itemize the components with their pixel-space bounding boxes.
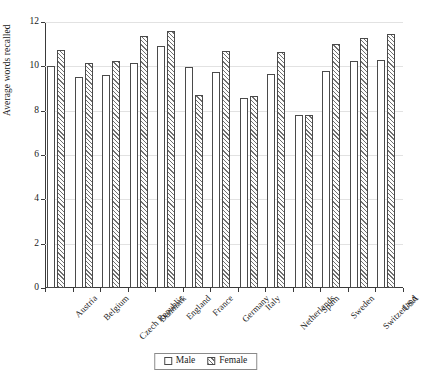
legend-item-label: Male bbox=[176, 356, 196, 366]
legend-item-label: Female bbox=[219, 356, 247, 366]
bar-group bbox=[293, 22, 321, 288]
bar-male bbox=[75, 77, 83, 288]
open-square-icon bbox=[164, 357, 172, 365]
x-tick-mark bbox=[210, 288, 211, 292]
y-tick-label: 12 bbox=[30, 17, 40, 27]
bar-male bbox=[212, 72, 220, 288]
x-tick-mark bbox=[320, 288, 321, 292]
hatched-square-icon bbox=[207, 357, 215, 365]
x-tick-label: Sweden bbox=[349, 293, 377, 321]
bar-male bbox=[295, 115, 303, 288]
x-tick-label: Belgium bbox=[102, 293, 131, 322]
x-tick-mark bbox=[293, 288, 294, 292]
bar-male bbox=[377, 60, 385, 288]
bar-female bbox=[387, 34, 395, 288]
bar-group bbox=[45, 22, 73, 288]
bar-male bbox=[240, 98, 248, 288]
bar-group bbox=[265, 22, 293, 288]
x-tick-label: Spain bbox=[319, 293, 341, 315]
x-tick-mark bbox=[348, 288, 349, 292]
bar-female bbox=[277, 52, 285, 288]
plot-area: 024681012 bbox=[45, 22, 403, 288]
bar-female bbox=[112, 61, 120, 288]
x-tick-mark bbox=[128, 288, 129, 292]
chart-legend: MaleFemale bbox=[154, 353, 258, 370]
bar-group bbox=[183, 22, 211, 288]
bar-female bbox=[332, 44, 340, 288]
bar-male bbox=[350, 61, 358, 288]
bar-female bbox=[250, 96, 258, 288]
bar-group bbox=[238, 22, 266, 288]
bar-male bbox=[102, 75, 110, 288]
y-tick-label: 8 bbox=[34, 106, 39, 116]
bar-group bbox=[348, 22, 376, 288]
bar-group bbox=[320, 22, 348, 288]
x-tick-mark bbox=[375, 288, 376, 292]
x-tick-mark bbox=[238, 288, 239, 292]
bar-male bbox=[47, 66, 55, 288]
x-tick-mark bbox=[155, 288, 156, 292]
x-tick-mark bbox=[403, 288, 404, 292]
y-tick-label: 10 bbox=[30, 62, 40, 72]
x-tick-label: France bbox=[210, 293, 235, 318]
bar-male bbox=[267, 74, 275, 288]
x-tick-label: England bbox=[184, 293, 213, 322]
y-tick-label: 6 bbox=[34, 150, 39, 160]
x-tick-mark bbox=[265, 288, 266, 292]
y-axis-title: Average words recalled bbox=[2, 0, 12, 116]
y-tick-label: 4 bbox=[34, 195, 39, 205]
x-tick-mark bbox=[183, 288, 184, 292]
x-tick-label: USA bbox=[401, 293, 421, 313]
x-tick-mark bbox=[73, 288, 74, 292]
bar-male bbox=[322, 71, 330, 288]
bar-group bbox=[73, 22, 101, 288]
bar-female bbox=[222, 51, 230, 288]
bar-male bbox=[157, 46, 165, 288]
legend-item-female[interactable]: Female bbox=[207, 356, 247, 366]
y-tick-label: 0 bbox=[34, 283, 39, 293]
bar-female bbox=[360, 38, 368, 288]
bar-group bbox=[375, 22, 403, 288]
bar-group bbox=[155, 22, 183, 288]
bar-female bbox=[167, 31, 175, 288]
bar-group bbox=[100, 22, 128, 288]
bar-male bbox=[185, 67, 193, 288]
bar-male bbox=[130, 63, 138, 288]
bar-group bbox=[128, 22, 156, 288]
y-tick-label: 2 bbox=[34, 239, 39, 249]
bar-female bbox=[85, 63, 93, 288]
x-tick-label: Austria bbox=[73, 293, 99, 319]
bar-female bbox=[195, 95, 203, 288]
bar-female bbox=[305, 115, 313, 288]
bar-group bbox=[210, 22, 238, 288]
bar-female bbox=[140, 36, 148, 288]
legend-item-male[interactable]: Male bbox=[164, 356, 196, 366]
x-tick-mark bbox=[45, 288, 46, 292]
bar-female bbox=[57, 50, 65, 288]
x-tick-mark bbox=[100, 288, 101, 292]
